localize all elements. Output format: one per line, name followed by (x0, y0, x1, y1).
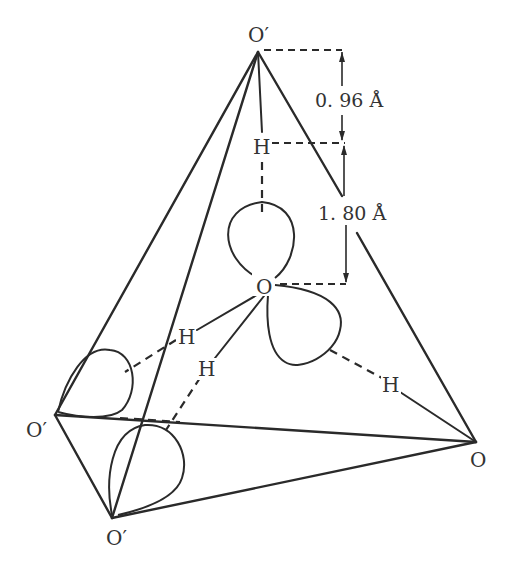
label-oh-distance: 0. 96 Å (315, 89, 383, 111)
lobe-left-oprime (58, 350, 133, 417)
bond-top-oprime-to-h-top (258, 52, 262, 132)
lobe-bottom-oprime (109, 425, 184, 515)
arrow-down-h (339, 131, 345, 141)
label-top-oprime: O′ (248, 23, 269, 47)
arrow-up-h (341, 145, 347, 155)
edge-left-bottom (55, 415, 112, 518)
atom-labels: O O′ O′ O′ O H H H H (26, 23, 486, 550)
edge-top-right-upper (258, 52, 342, 196)
label-h-right: H (382, 373, 399, 397)
arrow-up-top (339, 52, 345, 62)
label-right-o: O (470, 448, 486, 472)
lobe-center-top (228, 202, 294, 278)
edge-top-right-lower (357, 233, 476, 442)
dimension-labels: 0. 96 Å 1. 80 Å (315, 89, 386, 224)
label-hbond-distance: 1. 80 Å (318, 202, 386, 224)
label-center-o: O (256, 275, 272, 299)
label-h-top: H (253, 135, 270, 159)
hbond-h-left-upper-to-lobe (125, 340, 176, 372)
water-tetrahedron-diagram: O O′ O′ O′ O H H H H 0. 96 Å 1. 80 Å (0, 0, 510, 567)
bond-h-right-to-o (400, 392, 476, 442)
edge-top-bottom (112, 52, 258, 518)
hbond-h-right-to-lobe (330, 350, 382, 378)
label-bottom-oprime: O′ (106, 526, 127, 550)
edge-left-right (55, 415, 476, 442)
label-left-oprime: O′ (26, 418, 47, 442)
label-h-left-upper: H (178, 325, 195, 349)
arrow-down-center (343, 273, 349, 283)
lobe-center-right (267, 285, 341, 365)
label-h-left-lower: H (198, 357, 215, 381)
edge-bottom-right (112, 442, 476, 518)
